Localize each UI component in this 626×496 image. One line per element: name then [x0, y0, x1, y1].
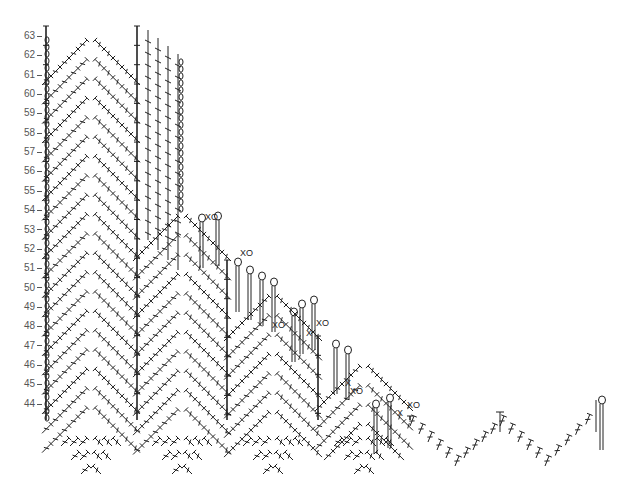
stitch-annotation: XO: [272, 320, 285, 330]
stitch-annotation: XO: [205, 212, 218, 222]
stitch-annotation: X: [397, 408, 403, 418]
stitch-annotation: X: [345, 378, 351, 388]
stitch-annotation: XO: [240, 248, 253, 258]
chevron-stitches: [42, 38, 596, 474]
stitch-annotation: XO: [350, 386, 363, 396]
stitch-annotation: XO: [316, 318, 329, 328]
stitch-annotation: XO: [407, 400, 420, 410]
crochet-chart: XOXOXOXOXXOXXXO: [0, 0, 626, 496]
stitch-annotation: X: [306, 328, 312, 338]
stitch-annotations: XOXOXOXOXXOXXXO: [205, 212, 420, 418]
